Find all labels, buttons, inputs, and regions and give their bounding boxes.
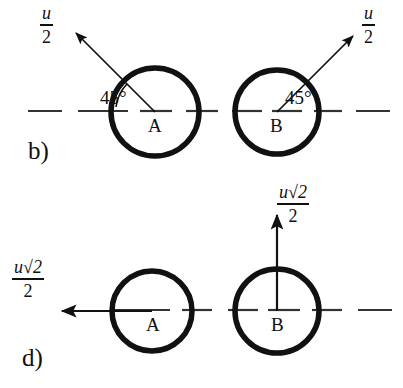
panel-label-d: d) [22, 345, 43, 370]
body-label-a-panel-b: A [148, 116, 162, 135]
vector-label-a-panel-d-denominator: 2 [12, 281, 44, 300]
fraction-bar [277, 203, 309, 205]
body-label-a-panel-d: A [146, 315, 160, 334]
vector-label-b-panel-b: u 2 [362, 4, 375, 46]
fraction-bar [362, 24, 375, 26]
vector-label-a-panel-b: u 2 [40, 4, 53, 46]
vector-label-a-panel-b-denominator: 2 [40, 27, 53, 46]
vector-label-a-panel-b-numerator: u [40, 4, 53, 23]
vector-label-b-panel-b-numerator: u [362, 4, 375, 23]
physics-figure: b) d) A B A B 45° 45° u 2 u 2 u√2 2 u√2 … [0, 0, 403, 388]
angle-label-b-panel-b: 45° [285, 88, 312, 107]
body-label-b-panel-b: B [270, 116, 283, 135]
body-label-b-panel-d: B [271, 315, 284, 334]
vector-label-b-panel-d: u√2 2 [277, 183, 309, 225]
fraction-bar [40, 24, 53, 26]
angle-label-a-panel-b: 45° [100, 88, 127, 107]
fraction-bar [12, 278, 44, 280]
vector-label-b-panel-b-denominator: 2 [362, 27, 375, 46]
vector-label-b-panel-d-denominator: 2 [277, 206, 309, 225]
panel-label-b: b) [28, 138, 49, 163]
vector-label-b-panel-d-numerator: u√2 [277, 183, 309, 202]
vector-label-a-panel-d-numerator: u√2 [12, 258, 44, 277]
vector-label-a-panel-d: u√2 2 [12, 258, 44, 300]
figure-canvas [0, 0, 403, 388]
